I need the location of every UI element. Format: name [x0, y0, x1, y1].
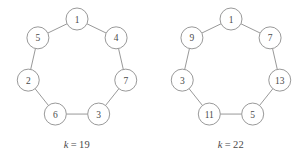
graph-edge: [273, 49, 278, 70]
node-circle: [88, 103, 110, 125]
graph-edge: [87, 24, 106, 33]
figure-right: 171351139 k=22: [154, 0, 308, 164]
caption-left: k=19: [0, 139, 154, 150]
caption-operator-left: =: [71, 139, 77, 150]
graph-node: 7: [259, 27, 281, 49]
graph-edge: [202, 24, 221, 33]
caption-right: k=22: [154, 139, 308, 150]
graph-node: 6: [44, 103, 66, 125]
node-circle: [259, 27, 281, 49]
graph-edge: [35, 89, 48, 106]
node-circle: [220, 8, 242, 30]
node-circle: [17, 69, 39, 91]
graph-node: 11: [198, 103, 220, 125]
node-circle: [181, 27, 203, 49]
caption-operator-right: =: [225, 139, 231, 150]
caption-variable-right: k: [218, 139, 223, 150]
graph-node: 5: [242, 103, 264, 125]
node-circle: [115, 69, 137, 91]
caption-variable-left: k: [64, 139, 69, 150]
graph-node: 5: [27, 27, 49, 49]
graph-edge: [260, 89, 273, 106]
cycle-graph-left: 1473625: [0, 0, 154, 140]
node-circle: [27, 27, 49, 49]
graph-edge: [119, 49, 124, 70]
graph-node: 3: [171, 69, 193, 91]
caption-value-left: 19: [79, 139, 90, 150]
graph-edge: [48, 24, 67, 33]
node-circle: [269, 69, 291, 91]
node-circle: [198, 103, 220, 125]
cycle-graph-right: 171351139: [154, 0, 308, 140]
node-circle: [105, 27, 127, 49]
node-circle: [44, 103, 66, 125]
graph-node: 1: [220, 8, 242, 30]
graph-edge: [189, 89, 202, 106]
graph-node: 3: [88, 103, 110, 125]
graph-node: 13: [269, 69, 291, 91]
graph-node: 4: [105, 27, 127, 49]
graph-node: 7: [115, 69, 137, 91]
graph-edge: [31, 49, 36, 70]
graph-node: 9: [181, 27, 203, 49]
graph-node: 1: [66, 8, 88, 30]
graph-node: 2: [17, 69, 39, 91]
node-circle: [171, 69, 193, 91]
graph-edge: [106, 89, 119, 106]
caption-value-right: 22: [233, 139, 244, 150]
graph-edge: [241, 24, 260, 33]
graph-edge: [185, 49, 190, 70]
node-circle: [242, 103, 264, 125]
figure-canvas: 1473625 k=19 171351139 k=22: [0, 0, 308, 164]
node-circle: [66, 8, 88, 30]
figure-left: 1473625 k=19: [0, 0, 154, 164]
